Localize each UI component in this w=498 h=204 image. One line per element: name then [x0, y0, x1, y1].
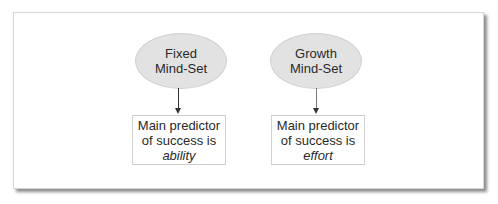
box-text-line-2: of success is — [142, 133, 216, 148]
arrow-fixed-to-ability — [178, 88, 179, 110]
effort-predictor-box: Main predictor of success is effort — [271, 115, 365, 165]
node-label-line-1: Growth — [295, 46, 337, 61]
ability-predictor-box: Main predictor of success is ability — [132, 115, 226, 165]
box-text-line-2: of success is — [281, 133, 355, 148]
growth-mindset-node: Growth Mind-Set — [270, 33, 362, 89]
node-label-line-2: Mind-Set — [290, 61, 342, 76]
box-emphasis-ability: ability — [162, 148, 195, 163]
node-label-line-1: Fixed — [165, 46, 197, 61]
arrowhead-icon — [175, 108, 181, 114]
node-label-line-2: Mind-Set — [155, 61, 207, 76]
box-emphasis-effort: effort — [303, 148, 333, 163]
box-text-line-1: Main predictor — [277, 118, 359, 133]
fixed-mindset-node: Fixed Mind-Set — [135, 33, 227, 89]
box-text-line-1: Main predictor — [138, 118, 220, 133]
arrowhead-icon — [313, 108, 319, 114]
arrow-growth-to-effort — [316, 88, 317, 110]
diagram-frame — [13, 12, 484, 189]
